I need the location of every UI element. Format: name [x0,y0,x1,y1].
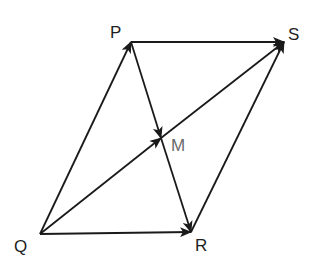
vector-qr [40,232,191,234]
vector-qm [40,138,161,234]
vector-ms [161,42,284,138]
point-label-s: S [288,26,299,43]
point-label-m: M [171,137,185,154]
vector-pm [131,42,161,138]
vector-qp [40,42,131,234]
vector-rs [191,42,284,232]
point-label-r: R [195,237,207,254]
point-label-p: P [110,24,121,41]
vector-diagram [0,0,316,270]
vector-lines [40,42,284,234]
point-label-q: Q [14,238,27,255]
